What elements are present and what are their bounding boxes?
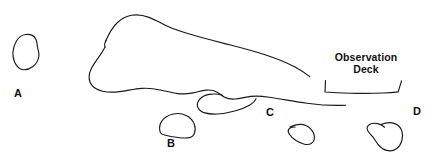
main-landmass-upper-shoreline [106,15,310,77]
island-label-b: B [167,137,175,149]
island-label-a: A [14,87,22,99]
island-label-d: D [413,105,421,117]
island-b-outline [160,114,196,139]
island-a-outline [13,34,39,69]
map-sketch-canvas: A B C D Observation Deck [0,0,446,162]
observation-deck-bracket [325,81,402,94]
sketch-drawing [0,0,446,162]
island-label-c: C [266,106,274,118]
observation-deck-annotation: Observation Deck [330,51,402,76]
main-landmass-lower-shoreline [89,47,345,105]
island-d-outline [367,123,402,151]
observation-deck-line-1: Observation [330,51,402,63]
observation-deck-line-2: Deck [330,63,402,75]
island-small-unlabeled-outline [288,124,314,144]
shoreline-inlet-notch [105,40,107,47]
